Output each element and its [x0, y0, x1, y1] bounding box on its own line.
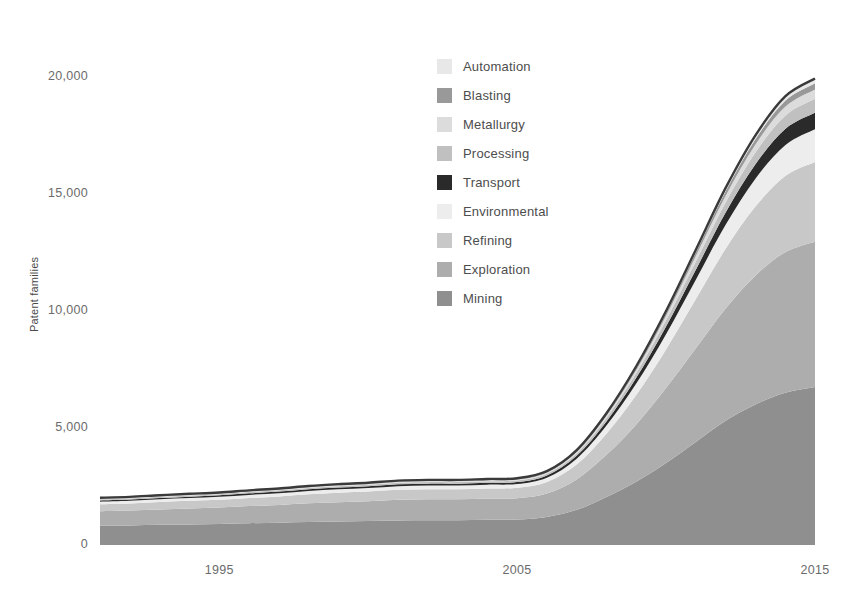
legend-item-label: Transport: [463, 175, 520, 190]
legend-swatch-icon: [437, 59, 452, 74]
legend-item-label: Processing: [463, 146, 529, 161]
legend-item-mining[interactable]: Mining: [437, 284, 607, 313]
legend-item-label: Metallurgy: [463, 117, 525, 132]
plot-area: [0, 0, 843, 603]
legend-item-metallurgy[interactable]: Metallurgy: [437, 110, 607, 139]
legend-swatch-icon: [437, 175, 452, 190]
chart-legend: AutomationBlastingMetallurgyProcessingTr…: [437, 52, 607, 313]
legend-item-exploration[interactable]: Exploration: [437, 255, 607, 284]
legend-swatch-icon: [437, 146, 452, 161]
legend-item-label: Refining: [463, 233, 512, 248]
legend-item-environmental[interactable]: Environmental: [437, 197, 607, 226]
legend-item-label: Automation: [463, 59, 531, 74]
legend-item-label: Blasting: [463, 88, 511, 103]
legend-item-label: Mining: [463, 291, 503, 306]
legend-swatch-icon: [437, 233, 452, 248]
legend-item-label: Environmental: [463, 204, 549, 219]
legend-item-processing[interactable]: Processing: [437, 139, 607, 168]
legend-swatch-icon: [437, 262, 452, 277]
legend-swatch-icon: [437, 204, 452, 219]
legend-item-refining[interactable]: Refining: [437, 226, 607, 255]
legend-item-label: Exploration: [463, 262, 530, 277]
legend-swatch-icon: [437, 117, 452, 132]
legend-swatch-icon: [437, 88, 452, 103]
stacked-area-chart: Patent families 05,00010,00015,00020,000…: [0, 0, 843, 603]
legend-item-automation[interactable]: Automation: [437, 52, 607, 81]
legend-item-transport[interactable]: Transport: [437, 168, 607, 197]
legend-item-blasting[interactable]: Blasting: [437, 81, 607, 110]
legend-swatch-icon: [437, 291, 452, 306]
